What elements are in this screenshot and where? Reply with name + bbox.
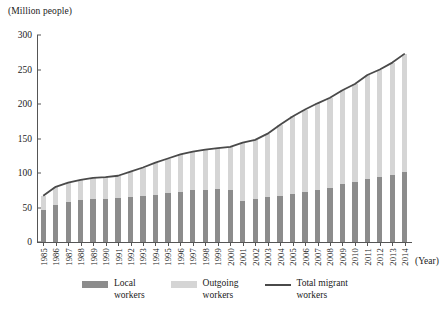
x-tick-mark-2008 bbox=[330, 242, 331, 246]
legend-item-outgoing-workers: Outgoing workers bbox=[171, 278, 239, 302]
x-tick-mark-1985 bbox=[43, 242, 44, 246]
legend-label-outgoing: Outgoing workers bbox=[203, 278, 239, 302]
x-tick-label-2001: 2001 bbox=[238, 248, 248, 266]
x-tick-label-1985: 1985 bbox=[39, 248, 49, 266]
x-tick-label-1993: 1993 bbox=[138, 248, 148, 266]
y-tick-label-0: 0 bbox=[27, 237, 37, 247]
x-tick-mark-1995 bbox=[168, 242, 169, 246]
x-tick-mark-2001 bbox=[243, 242, 244, 246]
legend-item-total-migrant-workers: Total migrant workers bbox=[265, 278, 348, 302]
x-tick-mark-2005 bbox=[293, 242, 294, 246]
x-tick-label-2013: 2013 bbox=[388, 248, 398, 266]
x-tick-mark-1991 bbox=[118, 242, 119, 246]
x-tick-mark-1994 bbox=[155, 242, 156, 246]
x-tick-label-2008: 2008 bbox=[325, 248, 335, 266]
y-axis-unit-label: (Million people) bbox=[8, 6, 72, 16]
x-tick-mark-2014 bbox=[405, 242, 406, 246]
legend-label-local: Local workers bbox=[114, 278, 145, 302]
y-tick-mark-250 bbox=[37, 69, 41, 70]
x-tick-label-2004: 2004 bbox=[276, 248, 286, 266]
x-tick-mark-1990 bbox=[106, 242, 107, 246]
x-tick-mark-1992 bbox=[131, 242, 132, 246]
legend-label-total: Total migrant workers bbox=[297, 278, 348, 302]
legend-label-total-line1: Total migrant bbox=[297, 278, 348, 288]
x-tick-mark-2007 bbox=[318, 242, 319, 246]
x-tick-mark-1989 bbox=[93, 242, 94, 246]
legend-swatch-outgoing bbox=[171, 281, 197, 288]
x-tick-label-1997: 1997 bbox=[188, 248, 198, 266]
legend-swatch-local bbox=[82, 281, 108, 288]
x-tick-mark-1998 bbox=[205, 242, 206, 246]
x-axis-title: (Year) bbox=[415, 256, 439, 266]
legend-label-total-line2: workers bbox=[297, 290, 328, 300]
y-tick-label-250: 250 bbox=[18, 65, 37, 75]
y-tick-label-100: 100 bbox=[18, 168, 37, 178]
y-tick-mark-100 bbox=[37, 173, 41, 174]
chart-legend: Local workers Outgoing workers Total mig… bbox=[82, 278, 422, 302]
x-tick-mark-1997 bbox=[193, 242, 194, 246]
x-tick-mark-1996 bbox=[180, 242, 181, 246]
x-tick-label-1989: 1989 bbox=[89, 248, 99, 266]
x-tick-mark-1987 bbox=[68, 242, 69, 246]
x-tick-label-1986: 1986 bbox=[51, 248, 61, 266]
migrant-workers-chart: (Million people) 050100150200250300 1985… bbox=[0, 0, 445, 312]
x-tick-mark-2000 bbox=[230, 242, 231, 246]
x-tick-mark-1993 bbox=[143, 242, 144, 246]
y-tick-mark-0 bbox=[37, 242, 41, 243]
y-tick-mark-50 bbox=[37, 207, 41, 208]
y-tick-label-300: 300 bbox=[18, 30, 37, 40]
x-tick-label-1987: 1987 bbox=[64, 248, 74, 266]
x-tick-label-2014: 2014 bbox=[400, 248, 410, 266]
x-tick-label-1992: 1992 bbox=[126, 248, 136, 266]
x-tick-mark-2011 bbox=[367, 242, 368, 246]
x-tick-label-2007: 2007 bbox=[313, 248, 323, 266]
x-tick-label-2003: 2003 bbox=[263, 248, 273, 266]
x-tick-label-1998: 1998 bbox=[201, 248, 211, 266]
x-tick-mark-2004 bbox=[280, 242, 281, 246]
x-tick-mark-2009 bbox=[342, 242, 343, 246]
x-tick-mark-2006 bbox=[305, 242, 306, 246]
x-tick-mark-2012 bbox=[380, 242, 381, 246]
y-tick-label-150: 150 bbox=[18, 134, 37, 144]
x-tick-label-2010: 2010 bbox=[350, 248, 360, 266]
legend-label-local-line2: workers bbox=[114, 290, 145, 300]
y-tick-mark-150 bbox=[37, 138, 41, 139]
x-tick-label-1991: 1991 bbox=[114, 248, 124, 266]
x-tick-mark-2010 bbox=[355, 242, 356, 246]
x-tick-label-2002: 2002 bbox=[251, 248, 261, 266]
y-tick-label-50: 50 bbox=[23, 203, 38, 213]
x-tick-mark-1986 bbox=[56, 242, 57, 246]
total-migrant-line-svg bbox=[37, 35, 411, 242]
x-tick-label-2009: 2009 bbox=[338, 248, 348, 266]
legend-swatch-total-line bbox=[265, 284, 291, 286]
x-tick-mark-2002 bbox=[255, 242, 256, 246]
x-tick-label-1988: 1988 bbox=[76, 248, 86, 266]
legend-item-local-workers: Local workers bbox=[82, 278, 145, 302]
x-tick-mark-2013 bbox=[392, 242, 393, 246]
x-tick-mark-1999 bbox=[218, 242, 219, 246]
y-tick-label-200: 200 bbox=[18, 99, 37, 109]
y-tick-mark-300 bbox=[37, 35, 41, 36]
total-line-layer bbox=[37, 35, 411, 242]
x-tick-label-2011: 2011 bbox=[363, 248, 373, 266]
legend-label-outgoing-line1: Outgoing bbox=[203, 278, 239, 288]
legend-label-local-line1: Local bbox=[114, 278, 136, 288]
x-tick-label-1990: 1990 bbox=[101, 248, 111, 266]
legend-label-outgoing-line2: workers bbox=[203, 290, 234, 300]
x-tick-label-1994: 1994 bbox=[151, 248, 161, 266]
x-tick-label-1996: 1996 bbox=[176, 248, 186, 266]
x-tick-mark-2003 bbox=[268, 242, 269, 246]
plot-area: 050100150200250300 bbox=[37, 35, 411, 242]
x-tick-label-2005: 2005 bbox=[288, 248, 298, 266]
y-tick-mark-200 bbox=[37, 104, 41, 105]
x-tick-label-1995: 1995 bbox=[163, 248, 173, 266]
x-tick-label-2012: 2012 bbox=[375, 248, 385, 266]
x-tick-mark-1988 bbox=[81, 242, 82, 246]
x-tick-label-1999: 1999 bbox=[213, 248, 223, 266]
x-tick-label-2006: 2006 bbox=[301, 248, 311, 266]
x-tick-label-2000: 2000 bbox=[226, 248, 236, 266]
